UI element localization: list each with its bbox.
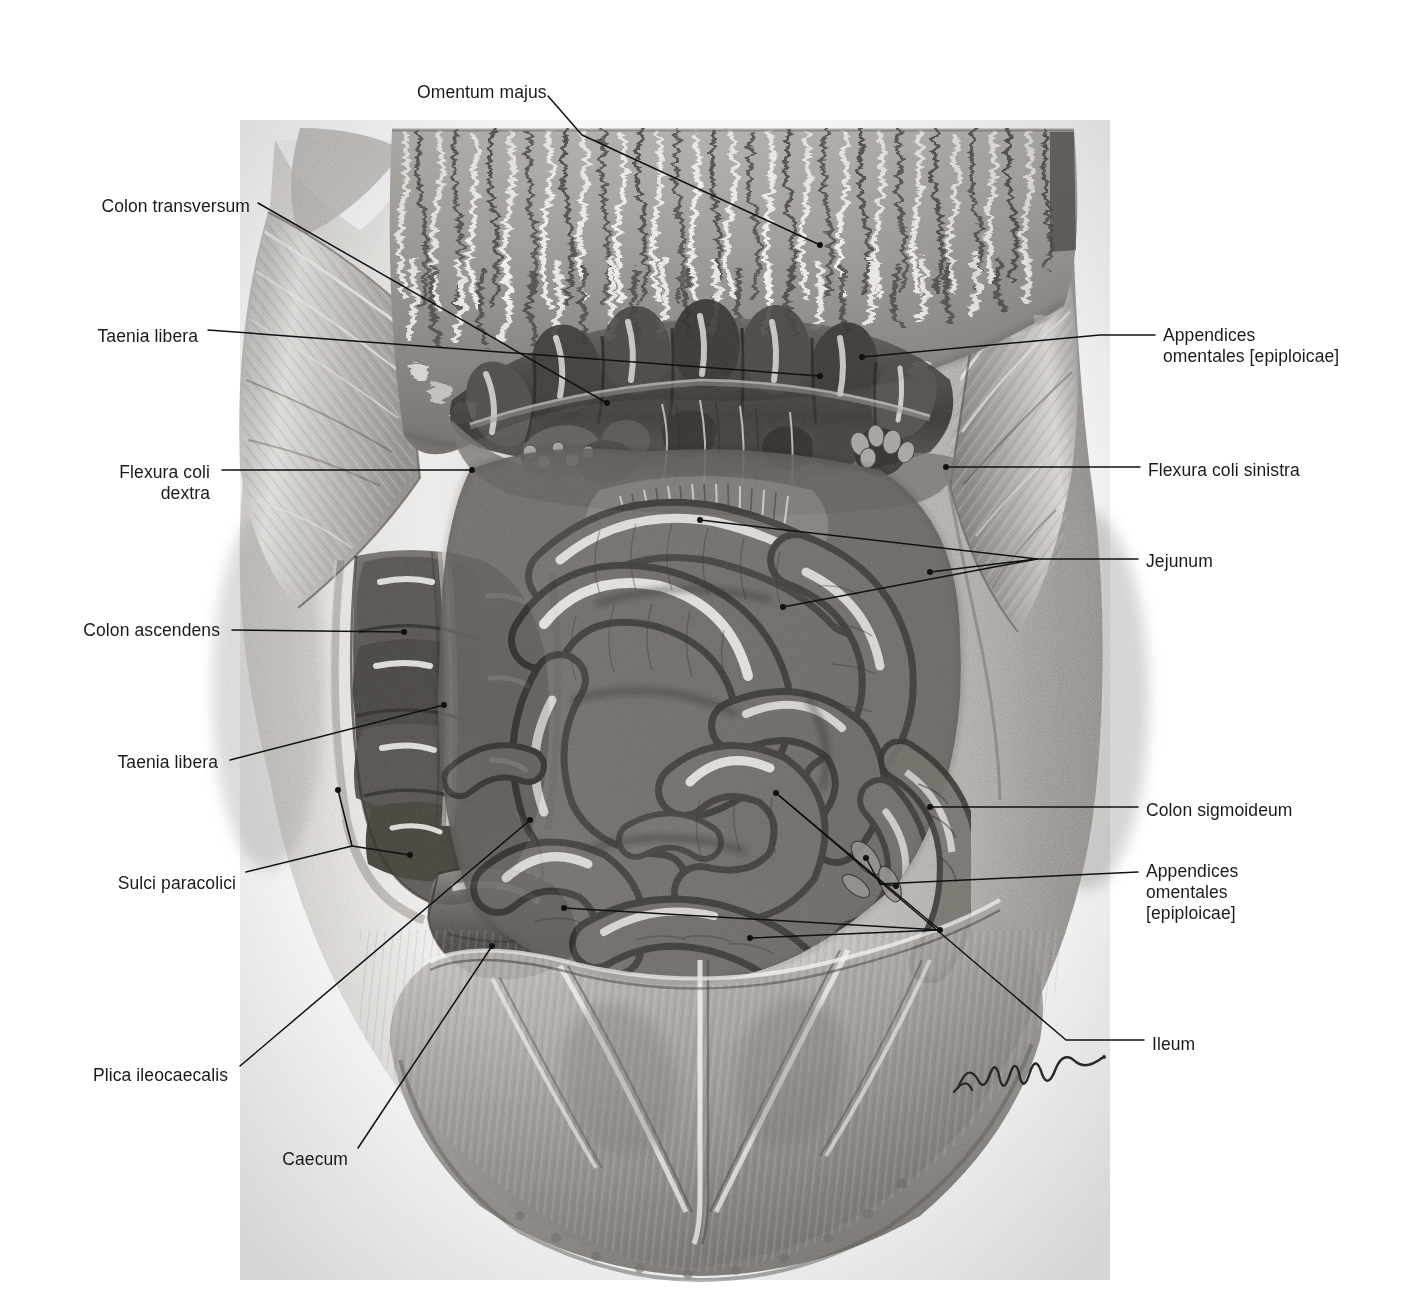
label-flexura-coli-sinistra: Flexura coli sinistra [1148,460,1300,481]
omentum-majus-sheet [390,130,1078,454]
leader-appendices-omentales-lower-b [880,884,896,886]
leader-sulci-paracolici [246,846,410,872]
abdominal-wall-flap-right [930,215,1100,800]
leader-jejunum-c [700,520,1037,559]
leader-endpoint-flexura-coli-sinistra [943,464,949,470]
leader-omentum-majus [548,96,820,245]
flexures-and-appendices [452,400,960,516]
abdominal-wall-flap-left [230,200,430,620]
leader-endpoint-sulci-paracolici [407,852,413,858]
label-caecum: Caecum [0,1149,348,1170]
leader-colon-transversum [258,203,607,403]
label-appendices-omentales-lower: Appendices omentales [epiploicae] [1146,861,1238,924]
leader-endpoint-ileum-b [937,927,943,933]
leader-endpoint-ileum [773,790,779,796]
leader-ileum-b [776,793,940,930]
label-colon-ascendens: Colon ascendens [0,620,220,641]
leader-endpoint-colon-ascendens [401,629,407,635]
colon-transversum-body [450,299,953,480]
leader-sulci-paracolici-b [338,790,352,846]
colon-sigmoideum-body [838,760,958,962]
illustration-canvas: Omentum majusColon transversumTaenia lib… [0,0,1415,1314]
leader-endpoint-omentum-majus [817,242,823,248]
leader-jejunum-b [930,559,1037,572]
leader-ileum-d [750,930,940,938]
label-flexura-coli-dextra: Flexura coli dextra [0,462,210,504]
label-colon-sigmoideum: Colon sigmoideum [1146,800,1293,821]
label-taenia-libera-upper: Taenia libera [0,326,198,347]
leader-endpoint-ileum-c [561,905,567,911]
leader-caecum [358,946,492,1148]
leader-endpoint-flexura-coli-dextra [469,467,475,473]
leader-endpoint-ileum-d [747,935,753,941]
leader-appendices-omentales-upper [862,335,1155,357]
leader-jejunum [783,559,1138,607]
label-taenia-libera-lower: Taenia libera [0,752,218,773]
label-jejunum: Jejunum [1146,551,1213,572]
label-ileum: Ileum [1152,1034,1195,1055]
leader-endpoint-jejunum-c [697,517,703,523]
leader-plica-ileocaecalis [240,820,530,1066]
leader-endpoint-taenia-libera-upper [817,373,823,379]
colon-ascendens-body [330,550,562,920]
label-sulci-paracolici: Sulci paracolici [0,873,236,894]
leader-endpoint-jejunum [780,604,786,610]
leader-taenia-libera-upper [208,330,820,376]
leader-colon-ascendens [232,630,404,632]
label-colon-transversum: Colon transversum [0,196,250,217]
leader-endpoint-plica-ileocaecalis [527,817,533,823]
leader-endpoint-appendices-omentales-lower-b [893,883,899,889]
leader-endpoint-caecum [489,943,495,949]
leader-endpoint-colon-sigmoideum [927,804,933,810]
label-plica-ileocaecalis: Plica ileocaecalis [0,1065,228,1086]
leader-endpoint-taenia-libera-lower [441,702,447,708]
leader-endpoint-colon-transversum [604,400,610,406]
artist-signature [952,1040,1112,1104]
leader-appendices-omentales-lower [866,858,1138,884]
leader-ileum-c [564,908,940,930]
leader-taenia-libera-lower [230,705,444,760]
leader-endpoint-sulci-paracolici-b [335,787,341,793]
caecum-body [428,812,575,979]
label-omentum-majus: Omentum majus [417,82,547,103]
small-intestine [430,440,990,1000]
leader-ileum [776,793,1144,1040]
leader-endpoint-appendices-omentales-lower [863,855,869,861]
label-appendices-omentales-upper: Appendices omentales [epiploicae] [1163,325,1339,367]
leader-endpoint-appendices-omentales-upper [859,354,865,360]
leader-endpoint-jejunum-b [927,569,933,575]
